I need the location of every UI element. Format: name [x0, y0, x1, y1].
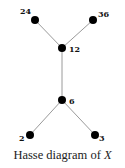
label-3: 3: [99, 133, 105, 143]
label-6: 6: [69, 96, 75, 106]
hasse-diagram-figure: 24 36 12 6 2 3 Hasse diagram of X: [0, 0, 125, 168]
caption-variable: X: [104, 148, 112, 162]
node-labels: 24 36 12 6 2 3: [19, 6, 110, 143]
hasse-diagram: 24 36 12 6 2 3: [0, 0, 125, 148]
node-6: [58, 96, 66, 104]
edge-6-3: [62, 100, 95, 135]
label-2: 2: [19, 133, 25, 143]
label-24: 24: [20, 6, 32, 16]
node-24: [31, 16, 39, 24]
edge-6-2: [30, 100, 62, 135]
diagram-caption: Hasse diagram of X: [0, 148, 125, 163]
label-36: 36: [98, 9, 110, 19]
node-2: [26, 131, 34, 139]
edges: [30, 20, 95, 135]
node-12: [58, 44, 66, 52]
caption-text: Hasse diagram of: [13, 148, 104, 162]
node-36: [89, 16, 97, 24]
node-3: [91, 131, 99, 139]
edge-24-12: [35, 20, 62, 48]
label-12: 12: [69, 44, 80, 54]
